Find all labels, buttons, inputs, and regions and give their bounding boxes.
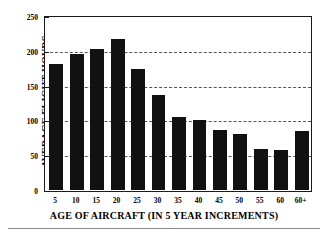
x-tick-label: 35: [168, 196, 188, 205]
x-tick-label: 15: [86, 196, 106, 205]
y-tick-label: 250: [2, 13, 38, 22]
plot-area: [44, 16, 312, 192]
y-tick-label: 150: [2, 82, 38, 91]
x-tick-label: 60: [270, 196, 290, 205]
bar-slot: [254, 18, 268, 190]
bar-slot: [131, 18, 145, 190]
bar-slot: [111, 18, 125, 190]
bar: [90, 49, 104, 190]
bar: [254, 149, 268, 190]
x-tick-label: 5: [45, 196, 65, 205]
x-tick-label: 40: [188, 196, 208, 205]
bar-slot: [213, 18, 227, 190]
bottom-divider: [8, 228, 320, 229]
x-tick-label: 25: [127, 196, 147, 205]
bar: [152, 95, 166, 190]
bar-chart-figure: AVERAGE FLIGHT HOURS 050100150200250 510…: [0, 0, 328, 235]
y-tick-label: 0: [2, 187, 38, 196]
x-axis-title: AGE OF AIRCRAFT (IN 5 YEAR INCREMENTS): [0, 210, 328, 221]
bar: [233, 134, 247, 190]
x-tick-label: 10: [65, 196, 85, 205]
y-tick-mark-0: [45, 191, 49, 192]
bar-slot: [70, 18, 84, 190]
bar-slot: [295, 18, 309, 190]
bar-slot: [274, 18, 288, 190]
bar: [111, 39, 125, 190]
bar: [131, 69, 145, 190]
bar: [172, 117, 186, 190]
x-tick-label: 30: [147, 196, 167, 205]
y-tick-label: 50: [2, 152, 38, 161]
x-tick-label: 60+: [291, 196, 311, 205]
x-tick-label: 45: [209, 196, 229, 205]
y-tick-label: 100: [2, 117, 38, 126]
x-tick-label: 50: [229, 196, 249, 205]
bar: [295, 131, 309, 190]
bar: [274, 150, 288, 190]
bar-slot: [193, 18, 207, 190]
x-tick-label: 55: [250, 196, 270, 205]
x-tick-label: 20: [106, 196, 126, 205]
bar: [70, 54, 84, 190]
bar-series: [46, 18, 310, 190]
bar-slot: [233, 18, 247, 190]
bar: [49, 64, 63, 190]
y-tick-label: 200: [2, 47, 38, 56]
bar: [193, 120, 207, 190]
bar: [213, 130, 227, 190]
bar-slot: [90, 18, 104, 190]
bar-slot: [172, 18, 186, 190]
bar-slot: [152, 18, 166, 190]
bar-slot: [49, 18, 63, 190]
